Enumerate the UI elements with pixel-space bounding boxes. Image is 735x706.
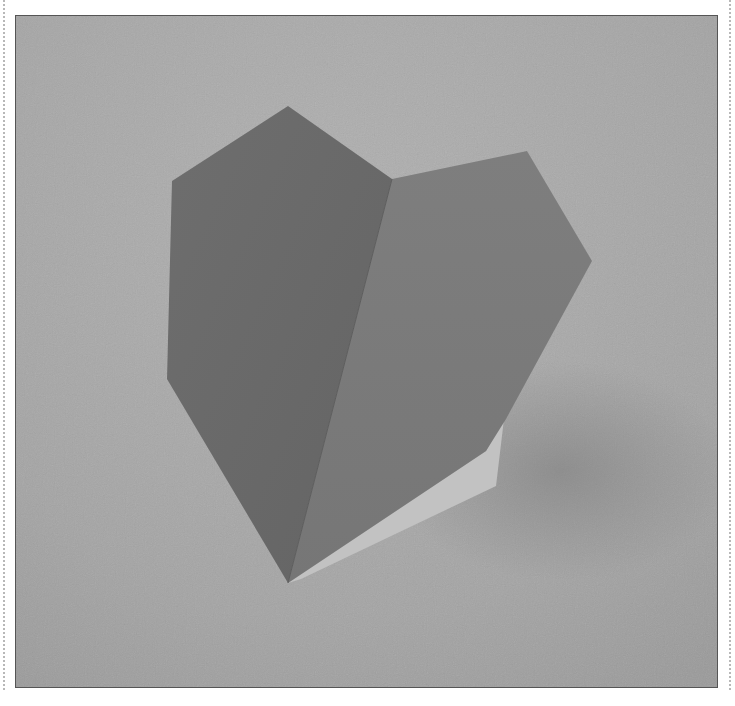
photo-frame: [15, 15, 718, 688]
left-dotted-guide: [3, 0, 5, 690]
right-dotted-guide: [729, 0, 731, 690]
origami-heart-photo: [16, 16, 718, 688]
